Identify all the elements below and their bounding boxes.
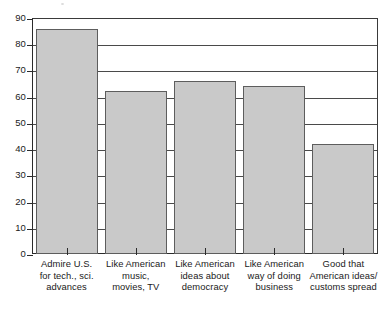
bars-container [32, 18, 378, 254]
y-axis-tick-label: 40 [15, 144, 26, 154]
y-axis-tick-label: 0 [21, 249, 26, 259]
x-axis-label-line: Like American [97, 258, 174, 270]
y-axis-tick-label: 80 [15, 39, 26, 49]
y-axis-tick-label: 30 [15, 170, 26, 180]
x-axis-label-line: Admire U.S. [28, 258, 105, 270]
y-axis-tick-label: 50 [15, 118, 26, 128]
y-axis-tick-labels: 0102030405060708090 [0, 0, 26, 312]
y-axis-tick-label: 20 [15, 197, 26, 207]
x-axis-ticks [32, 248, 378, 256]
x-axis-tick [274, 248, 275, 255]
x-axis-label-line: Like American [236, 258, 313, 270]
bar [174, 81, 236, 254]
y-axis-tick-label: 70 [15, 65, 26, 75]
x-axis-category-label: Admire U.S.for tech., sci.advances [28, 258, 105, 293]
x-axis-tick [67, 248, 68, 255]
bar-chart: 0102030405060708090 Admire U.S.for tech.… [0, 0, 392, 312]
bar [243, 86, 305, 254]
x-axis-label-line: music, [97, 270, 174, 282]
x-axis-tick [205, 248, 206, 255]
x-axis-label-line: Good that [305, 258, 382, 270]
x-axis-label-line: for tech., sci. [28, 270, 105, 282]
x-axis-label-line: way of doing [236, 270, 313, 282]
y-axis-tick-label: 10 [15, 223, 26, 233]
x-axis-tick [343, 248, 344, 255]
y-axis-tick-label: 60 [15, 92, 26, 102]
x-axis-category-labels: Admire U.S.for tech., sci.advancesLike A… [32, 258, 378, 308]
x-axis-tick [136, 248, 137, 255]
scan-speck [61, 3, 64, 5]
x-axis-category-label: Like Americanmusic,movies, TV [97, 258, 174, 293]
y-axis-tick-label: 90 [15, 13, 26, 23]
x-axis-category-label: Like Americanway of doingbusiness [236, 258, 313, 293]
x-axis-label-line: customs spread [305, 281, 382, 293]
x-axis-category-label: Good thatAmerican ideas/customs spread [305, 258, 382, 293]
x-axis-category-label: Like Americanideas aboutdemocracy [166, 258, 243, 293]
x-axis-label-line: business [236, 281, 313, 293]
x-axis-label-line: Like American [166, 258, 243, 270]
x-axis-label-line: democracy [166, 281, 243, 293]
bar [105, 91, 167, 254]
bar [36, 29, 98, 255]
x-axis-label-line: ideas about [166, 270, 243, 282]
bar [312, 144, 374, 254]
x-axis-label-line: movies, TV [97, 281, 174, 293]
x-axis-label-line: advances [28, 281, 105, 293]
x-axis-label-line: American ideas/ [305, 270, 382, 282]
